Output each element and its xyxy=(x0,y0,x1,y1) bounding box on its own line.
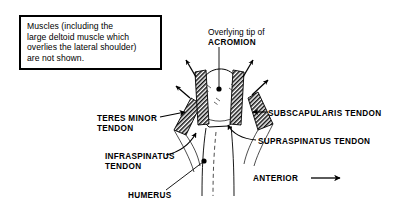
humerus-leader-dot xyxy=(201,158,206,163)
humerus-leader xyxy=(166,162,203,190)
splay-arrow-upper-right xyxy=(243,60,253,77)
humerus-shaft xyxy=(202,126,234,196)
label-supraspinatus-tendon: SUPRASPINATUS TENDON xyxy=(258,137,370,147)
label-teres-minor-tendon-line2: TENDON xyxy=(97,124,133,134)
label-infraspinatus-tendon-line1: INFRASPINATUS xyxy=(105,152,175,162)
note-line-3: overlies the lateral shoulder) xyxy=(27,42,155,53)
label-subscapularis-tendon: SUBSCAPULARIS TENDON xyxy=(268,109,381,119)
note-line-1: Muscles (including the xyxy=(27,21,155,32)
supraspinatus-tendon-band xyxy=(230,70,244,125)
infraspinatus-tendon-band xyxy=(195,70,209,125)
acromion-leader-dot xyxy=(216,86,221,91)
muscles-not-shown-note: Muscles (including the large deltoid mus… xyxy=(19,15,162,70)
note-line-4: are not shown. xyxy=(27,53,155,64)
label-anterior: ANTERIOR xyxy=(253,174,298,184)
label-humerus: HUMERUS xyxy=(128,191,172,201)
splay-arrow-upper-left xyxy=(186,60,196,77)
label-acromion-prefix: Overlying tip of xyxy=(208,27,265,37)
tendon-insertions xyxy=(174,124,273,172)
note-line-2: large deltoid muscle which xyxy=(27,32,155,43)
splay-arrow-right xyxy=(252,80,268,95)
splay-arrow-left xyxy=(176,86,190,98)
label-acromion: ACROMION xyxy=(208,38,256,48)
label-teres-minor-tendon-line1: TERES MINOR xyxy=(97,114,157,124)
label-infraspinatus-tendon-line2: TENDON xyxy=(105,162,141,172)
